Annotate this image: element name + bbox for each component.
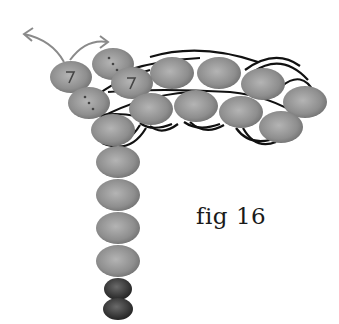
stem-bead <box>96 179 140 211</box>
beading-diagram <box>0 0 339 324</box>
end-beads <box>103 278 133 320</box>
bead <box>241 68 285 100</box>
thread-dot-marker <box>112 63 115 66</box>
thread-dot-marker <box>88 102 91 105</box>
stem-beads <box>91 114 140 277</box>
figure-caption: fig 16 <box>196 203 266 229</box>
bead <box>150 57 194 89</box>
thread-dot-marker <box>92 108 95 111</box>
bead <box>129 93 173 125</box>
bead <box>259 111 303 143</box>
front-row-beads <box>129 90 303 143</box>
end-bead <box>103 298 133 320</box>
stem-bead <box>96 146 140 178</box>
thread-dot-marker <box>84 96 87 99</box>
figure-canvas: fig 16 <box>0 0 339 324</box>
end-bead <box>104 278 132 300</box>
thread-dot-marker <box>116 69 119 72</box>
stem-bead <box>96 245 140 277</box>
bead <box>219 96 263 128</box>
thread-dot-marker <box>108 57 111 60</box>
bead <box>174 90 218 122</box>
stem-bead <box>96 212 140 244</box>
stem-bead <box>91 114 135 146</box>
bead <box>197 57 241 89</box>
